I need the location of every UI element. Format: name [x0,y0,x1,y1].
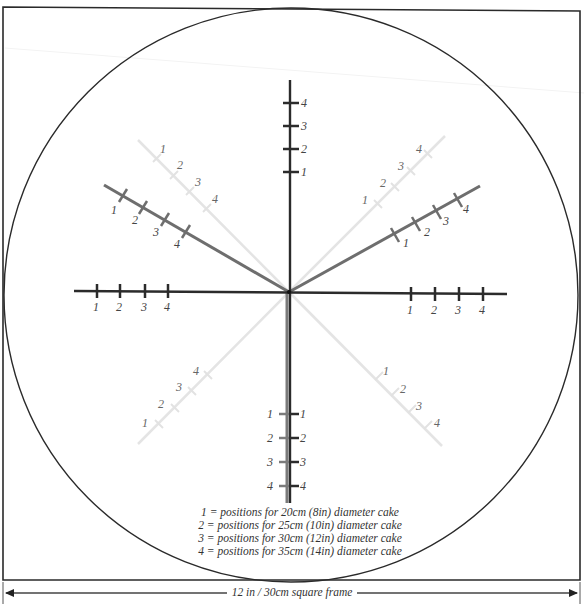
ll-light-label-1: 1 [142,416,148,431]
top-label-3: 3 [301,119,307,134]
top-label-4: 4 [301,96,307,111]
ul-dark-label-4: 4 [174,237,180,252]
left-label-4: 4 [164,300,170,315]
bottom-right-label-3: 3 [300,455,306,470]
lr-light-label-1: 1 [383,364,389,379]
bottom-left-label-2: 2 [267,431,273,446]
bottom-left-label-3: 3 [267,455,273,470]
right-label-3: 3 [455,303,461,318]
right-label-4: 4 [479,303,485,318]
frame-caption: 12 in / 30cm square frame [0,584,584,600]
ur-light-label-1: 1 [362,193,368,208]
frame-caption-text: 12 in / 30cm square frame [227,586,358,598]
bottom-left-label-1: 1 [267,407,273,422]
lr-light-label-4: 4 [434,416,440,431]
ul-light-label-3: 3 [195,175,201,190]
ul-light-label-2: 2 [177,158,183,173]
ur-light-label-3: 3 [398,159,404,174]
left-label-3: 3 [141,300,147,315]
lr-light-label-3: 3 [416,399,422,414]
top-label-2: 2 [301,142,307,157]
legend-item-1: 1 = positions for 20cm (8in) diameter ca… [150,506,450,519]
ll-light-label-3: 3 [176,380,182,395]
ul-dark-label-1: 1 [111,203,117,218]
template-diagram: 4 3 2 1 1 2 3 4 1 2 3 4 1 2 3 4 1 2 3 4 … [0,0,584,607]
top-label-1: 1 [301,165,307,180]
bottom-right-label-2: 2 [300,431,306,446]
ur-dark-label-2: 2 [424,225,430,240]
ur-light-label-4: 4 [416,142,422,157]
ul-light-label-4: 4 [212,192,218,207]
ur-dark-label-3: 3 [443,214,449,229]
ur-dark-label-1: 1 [403,236,409,251]
ll-light-label-2: 2 [158,397,164,412]
legend-item-4: 4 = positions for 35cm (14in) diameter c… [150,545,450,558]
ul-dark-label-3: 3 [153,225,159,240]
right-label-1: 1 [407,303,413,318]
left-label-2: 2 [116,300,122,315]
ul-dark-label-2: 2 [132,213,138,228]
ur-dark-label-4: 4 [463,202,469,217]
ur-light-label-2: 2 [380,176,386,191]
legend-item-2: 2 = positions for 25cm (10in) diameter c… [150,519,450,532]
bottom-left-label-4: 4 [267,479,273,494]
right-label-2: 2 [431,303,437,318]
legend: 1 = positions for 20cm (8in) diameter ca… [150,506,450,558]
legend-item-3: 3 = positions for 30cm (12in) diameter c… [150,532,450,545]
ll-light-label-4: 4 [193,364,199,379]
lr-light-label-2: 2 [400,382,406,397]
bottom-right-label-1: 1 [300,407,306,422]
bottom-right-label-4: 4 [300,479,306,494]
ul-light-label-1: 1 [160,142,166,157]
left-label-1: 1 [93,300,99,315]
